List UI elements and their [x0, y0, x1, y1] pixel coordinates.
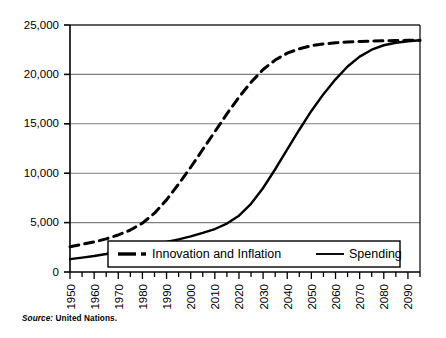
- chart-figure: 05,00010,00015,00020,00025,000 195019601…: [0, 0, 446, 338]
- x-tick-label: 2020: [233, 284, 245, 310]
- x-tick-label: 1970: [113, 284, 125, 310]
- x-tick-label: 2060: [330, 284, 342, 310]
- x-tick-label: 1990: [161, 284, 173, 310]
- x-tick-label: 2010: [209, 284, 221, 310]
- legend-label-spending: Spending: [349, 247, 402, 261]
- x-tick-label: 2030: [258, 284, 270, 310]
- x-tick-label: 2090: [402, 284, 414, 310]
- x-tick-label: 1950: [65, 284, 77, 310]
- source-label: Source:: [22, 314, 53, 323]
- line-chart: 05,00010,00015,00020,00025,000 195019601…: [0, 0, 446, 338]
- x-tick-labels: 1950196019701980199020002010202020302040…: [65, 284, 415, 310]
- legend-label-innovation-and-inflation: Innovation and Inflation: [152, 247, 281, 261]
- x-tick-label: 2040: [282, 284, 294, 310]
- x-tick-label: 1980: [137, 284, 149, 310]
- x-tick-label: 2070: [354, 284, 366, 310]
- chart-legend: Innovation and Inflation Spending: [108, 241, 402, 267]
- x-tick-label: 1960: [89, 284, 101, 310]
- source-text: United Nations.: [53, 314, 117, 323]
- y-tick-label: 0: [53, 266, 59, 278]
- y-tick-label: 10,000: [24, 167, 59, 179]
- source-note: Source: United Nations.: [22, 314, 117, 323]
- y-tick-label: 5,000: [30, 216, 59, 228]
- x-tick-label: 2050: [306, 284, 318, 310]
- y-tick-label: 15,000: [24, 117, 59, 129]
- y-tick-label: 20,000: [24, 68, 59, 80]
- x-tick-label: 2000: [185, 284, 197, 310]
- y-tick-label: 25,000: [24, 19, 59, 31]
- x-tick-label: 2080: [378, 284, 390, 310]
